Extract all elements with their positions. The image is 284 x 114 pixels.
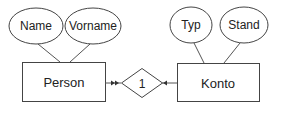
entity-konto-label: Konto bbox=[201, 76, 235, 91]
connector-vorname-person bbox=[70, 44, 90, 62]
connector-stand-konto bbox=[224, 43, 240, 63]
attribute-vorname-label: Vorname bbox=[69, 19, 117, 33]
entity-person-label: Person bbox=[43, 75, 84, 90]
attribute-typ-label: Typ bbox=[181, 18, 201, 32]
relationship-label: 1 bbox=[139, 77, 146, 91]
attribute-typ[interactable]: Typ bbox=[170, 7, 212, 43]
connector-typ-konto bbox=[194, 43, 204, 63]
attribute-stand[interactable]: Stand bbox=[220, 7, 268, 43]
arrowhead-icon bbox=[163, 81, 167, 86]
entity-person[interactable]: Person bbox=[23, 63, 106, 102]
attribute-name-label: Name bbox=[20, 19, 52, 33]
attribute-vorname[interactable]: Vorname bbox=[65, 8, 121, 44]
relationship-diamond[interactable]: 1 bbox=[122, 69, 163, 98]
double-arrowhead-icon bbox=[111, 81, 119, 86]
attribute-name[interactable]: Name bbox=[9, 8, 63, 44]
entity-konto[interactable]: Konto bbox=[178, 64, 260, 102]
connector-name-person bbox=[38, 44, 60, 62]
er-diagram: Name Vorname Typ Stand Person Konto 1 bbox=[0, 0, 284, 114]
attribute-stand-label: Stand bbox=[228, 18, 259, 32]
